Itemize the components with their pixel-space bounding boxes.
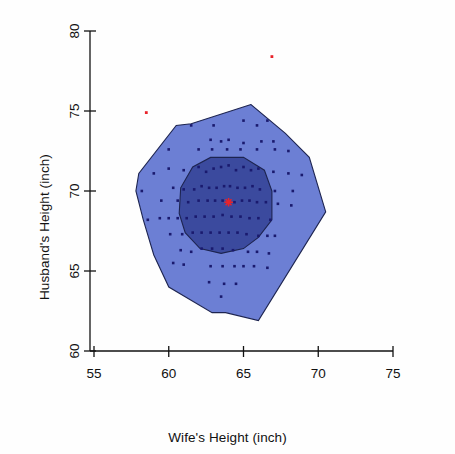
data-point	[290, 204, 293, 207]
data-point	[266, 267, 269, 270]
data-point	[256, 251, 259, 254]
data-point	[169, 233, 172, 236]
y-tick-label: 65	[67, 263, 82, 278]
x-tick-label: 60	[161, 366, 176, 381]
depth-median-marker	[224, 198, 232, 206]
data-point	[182, 263, 185, 266]
data-point	[277, 203, 280, 206]
data-point	[209, 265, 212, 268]
data-point	[253, 265, 256, 268]
data-point	[269, 219, 272, 222]
data-point	[218, 231, 221, 234]
data-point	[232, 249, 235, 252]
data-point	[205, 171, 208, 174]
data-point	[172, 187, 175, 190]
data-point	[172, 262, 175, 265]
data-point	[268, 252, 271, 255]
data-point	[257, 235, 260, 238]
data-point	[235, 169, 238, 172]
data-point	[212, 167, 215, 170]
data-point	[211, 148, 214, 151]
data-point	[159, 217, 162, 220]
data-point	[220, 295, 223, 298]
data-point	[287, 172, 290, 175]
data-point	[233, 201, 236, 204]
data-point	[256, 124, 259, 127]
data-point	[182, 169, 185, 172]
data-point	[242, 166, 245, 169]
data-point	[160, 199, 163, 202]
y-tick-label: 60	[67, 343, 82, 358]
data-point	[233, 265, 236, 268]
outlier-point	[145, 111, 148, 114]
data-point	[223, 185, 226, 188]
data-point	[244, 187, 247, 190]
plot-canvas: 55606570756065707580	[0, 0, 455, 454]
data-point	[200, 231, 203, 234]
data-point	[176, 217, 179, 220]
data-point	[191, 231, 194, 234]
data-point	[190, 251, 193, 254]
data-point	[227, 139, 230, 142]
data-point	[220, 166, 223, 169]
x-tick-label: 55	[86, 366, 101, 381]
x-tick-label: 70	[311, 366, 326, 381]
y-tick-label: 70	[67, 183, 82, 198]
data-point	[193, 188, 196, 191]
data-point	[214, 199, 217, 202]
data-point	[236, 187, 239, 190]
data-point	[250, 169, 253, 172]
data-point	[221, 247, 224, 250]
data-point	[147, 219, 150, 222]
data-point	[242, 142, 245, 145]
data-point	[245, 233, 248, 236]
data-point	[208, 187, 211, 190]
data-point	[194, 215, 197, 218]
median-center-dot	[226, 200, 230, 204]
y-axis-title: Husband's Height (inch)	[37, 97, 52, 357]
data-point	[212, 124, 215, 127]
data-point	[153, 172, 156, 175]
data-point	[226, 148, 229, 151]
data-point	[212, 215, 215, 218]
x-axis-title: Wife's Height (inch)	[0, 430, 455, 445]
data-point	[211, 247, 214, 250]
data-point	[179, 249, 182, 252]
data-point	[167, 148, 170, 151]
data-point	[167, 217, 170, 220]
data-point	[257, 217, 260, 220]
data-point	[260, 140, 263, 143]
data-point	[187, 201, 190, 204]
data-point	[274, 235, 277, 238]
outlier-point	[271, 55, 274, 58]
x-tick-label: 65	[236, 366, 251, 381]
bagplot-figure: 55606570756065707580 Wife's Height (inch…	[0, 0, 455, 454]
data-point	[259, 188, 262, 191]
data-point	[230, 215, 233, 218]
data-point	[208, 281, 211, 284]
data-point	[272, 140, 275, 143]
x-tick-label: 75	[385, 366, 400, 381]
data-point	[221, 199, 224, 202]
data-point	[266, 119, 269, 122]
data-point	[248, 217, 251, 220]
data-point	[209, 139, 212, 142]
data-point	[220, 140, 223, 143]
outlier-points-group	[145, 55, 273, 114]
data-point	[287, 150, 290, 153]
data-point	[251, 185, 254, 188]
data-point	[181, 233, 184, 236]
data-point	[235, 283, 238, 286]
data-point	[223, 283, 226, 286]
data-point	[221, 214, 224, 217]
y-tick-label: 80	[67, 23, 82, 38]
data-point	[236, 231, 239, 234]
data-point	[197, 148, 200, 151]
data-point	[203, 215, 206, 218]
data-point	[176, 199, 179, 202]
data-point	[266, 235, 269, 238]
data-point	[167, 167, 170, 170]
data-point	[239, 215, 242, 218]
data-point	[197, 166, 200, 169]
data-point	[197, 199, 200, 202]
